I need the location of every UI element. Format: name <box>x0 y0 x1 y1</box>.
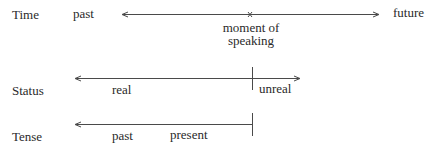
row-label-tense: Tense <box>12 130 42 144</box>
row-label-time: Time <box>12 8 39 22</box>
time-past-label: past <box>73 7 94 21</box>
time-future-label: future <box>393 6 424 20</box>
moment-of-speaking-label-line2: speaking <box>215 34 287 48</box>
row-label-status: Status <box>12 84 44 98</box>
tense-present-label: present <box>170 128 208 142</box>
tense-axis <box>75 113 253 136</box>
status-unreal-label: unreal <box>259 82 291 96</box>
time-axis <box>122 12 379 17</box>
tense-past-label: past <box>112 129 133 143</box>
status-real-label: real <box>112 83 131 97</box>
